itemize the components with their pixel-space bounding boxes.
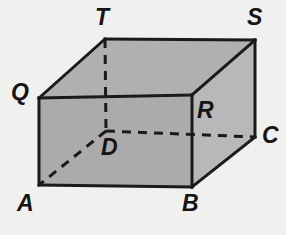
vertex-label-t: T — [95, 6, 109, 29]
prism-diagram — [0, 0, 286, 235]
edge-TS — [105, 39, 255, 40]
vertex-label-a: A — [17, 192, 34, 215]
figure-canvas: TSQRCDAB — [0, 0, 286, 235]
vertex-label-c: C — [262, 124, 279, 147]
prism-faces — [39, 39, 255, 187]
edge-AB — [39, 185, 192, 187]
vertex-label-d: D — [101, 136, 118, 159]
vertex-label-q: Q — [11, 81, 29, 104]
vertex-label-b: B — [182, 192, 199, 215]
vertex-label-r: R — [197, 99, 214, 122]
vertex-label-s: S — [247, 6, 262, 29]
